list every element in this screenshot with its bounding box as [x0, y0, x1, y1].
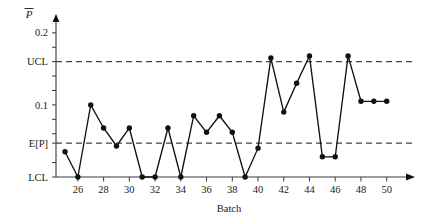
y-axis-tick-labels: 0.2UCL0.1E[P]LCL [27, 27, 48, 182]
x-tick-label: 42 [279, 184, 290, 195]
data-point [242, 174, 247, 179]
data-point [294, 81, 299, 86]
data-point [178, 174, 183, 179]
x-tick-label: 32 [150, 184, 161, 195]
x-axis-arrowhead [406, 174, 415, 181]
data-point [165, 125, 170, 130]
data-series-pbar [62, 53, 389, 180]
data-point [345, 53, 350, 58]
data-point [320, 154, 325, 159]
data-point [333, 154, 338, 159]
data-point [191, 113, 196, 118]
chart-canvas: 0.2UCL0.1E[P]LCL 26283032343638404244464… [0, 0, 429, 224]
axes [53, 14, 415, 180]
x-tick-label: 28 [98, 184, 109, 195]
data-point [217, 113, 222, 118]
data-point [268, 55, 273, 60]
data-point [114, 143, 119, 148]
data-point [281, 109, 286, 114]
data-point [230, 130, 235, 135]
data-point [371, 99, 376, 104]
data-point [101, 125, 106, 130]
data-point [204, 130, 209, 135]
series-line-pbar [65, 56, 387, 177]
data-point [88, 102, 93, 107]
data-point [127, 125, 132, 130]
x-axis-tick-marks [78, 177, 387, 182]
x-tick-label: 36 [201, 184, 212, 195]
y-axis-title: P [25, 8, 33, 20]
data-point [140, 174, 145, 179]
x-tick-label: 34 [176, 184, 187, 195]
data-point [307, 53, 312, 58]
x-tick-label: 38 [227, 184, 238, 195]
data-point [255, 145, 260, 150]
data-point [358, 99, 363, 104]
data-point [384, 99, 389, 104]
control-chart: 0.2UCL0.1E[P]LCL 26283032343638404244464… [0, 0, 429, 224]
data-point [75, 174, 80, 179]
x-tick-label: 44 [304, 184, 315, 195]
y-tick-label: UCL [27, 56, 48, 67]
x-tick-label: 26 [73, 184, 84, 195]
x-tick-label: 46 [330, 184, 341, 195]
y-tick-label: 0.1 [35, 100, 48, 111]
x-axis-title: Batch [217, 203, 242, 214]
data-point [62, 149, 67, 154]
data-point [152, 174, 157, 179]
y-tick-label: E[P] [29, 138, 48, 149]
x-tick-label: 50 [381, 184, 392, 195]
x-axis-tick-labels: 26283032343638404244464850 [73, 184, 392, 195]
x-tick-label: 40 [253, 184, 264, 195]
y-axis-tick-marks [52, 33, 56, 177]
x-tick-label: 48 [356, 184, 367, 195]
y-axis-arrowhead [53, 14, 60, 22]
y-tick-label: 0.2 [35, 27, 48, 38]
x-tick-label: 30 [124, 184, 135, 195]
y-tick-label: LCL [28, 172, 48, 183]
